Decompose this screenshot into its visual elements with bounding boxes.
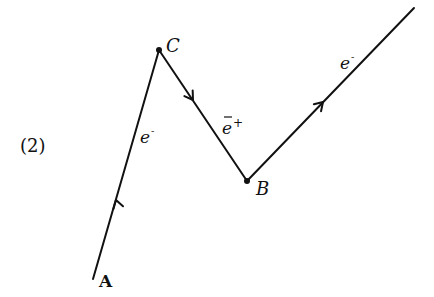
label-b: B <box>255 178 269 199</box>
segment-b-to-end <box>247 8 414 181</box>
particle-label-electron-ac: e - <box>140 125 154 147</box>
particle-label-electron-b-end: e - <box>340 51 354 73</box>
vertex-c-dot <box>156 47 162 53</box>
arrow-up-icon <box>111 199 123 209</box>
svg-text:-: - <box>151 125 154 136</box>
label-a: A <box>98 271 113 291</box>
svg-text:e: e <box>340 53 350 73</box>
equation-number: (2) <box>20 135 46 156</box>
vertex-b-dot <box>244 178 250 184</box>
segment-a-to-c <box>93 50 159 279</box>
feynman-diagram: C B A (2) e - e + e - <box>0 0 434 297</box>
svg-text:+: + <box>233 116 243 130</box>
particle-label-positron-cb: e + <box>222 116 243 138</box>
label-c: C <box>166 35 180 56</box>
svg-text:e: e <box>140 127 150 147</box>
svg-text:e: e <box>222 118 232 138</box>
svg-text:-: - <box>351 51 354 62</box>
